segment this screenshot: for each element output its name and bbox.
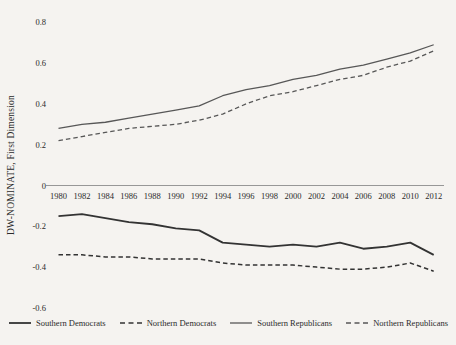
x-tick-label: 1994 (214, 191, 232, 201)
legend-label-northern-democrats: Northern Democrats (147, 318, 217, 328)
y-tick-label: 0 (42, 181, 46, 191)
legend-item-northern-republicans: Northern Republicans (345, 318, 448, 328)
x-tick-label: 1980 (50, 191, 67, 201)
chart-legend: Southern DemocratsNorthern DemocratsSout… (0, 313, 456, 333)
y-tick-label: 0.2 (35, 140, 46, 150)
y-tick-label: -0.4 (33, 262, 47, 272)
x-tick-label: 2012 (425, 191, 442, 201)
x-tick-label: 2002 (308, 191, 325, 201)
x-tick-label: 1990 (167, 191, 184, 201)
y-tick-label: -0.2 (33, 221, 46, 231)
x-tick-label: 1998 (261, 191, 278, 201)
y-tick-label: -0.6 (33, 303, 46, 313)
y-tick-label: 0.6 (35, 58, 46, 68)
y-tick-label: 0.4 (35, 99, 46, 109)
legend-sample-northern-republicans (345, 319, 369, 327)
x-tick-label: 1982 (73, 191, 90, 201)
series-line-northern-republicans (59, 51, 434, 141)
y-tick-label: 0.8 (35, 17, 46, 27)
legend-label-southern-republicans: Southern Republicans (257, 318, 332, 328)
x-tick-label: 1984 (97, 191, 115, 201)
legend-label-southern-democrats: Southern Democrats (36, 318, 106, 328)
x-tick-label: 2010 (402, 191, 419, 201)
legend-sample-southern-democrats (8, 319, 32, 327)
legend-item-southern-republicans: Southern Republicans (229, 318, 332, 328)
series-line-southern-democrats (59, 214, 434, 255)
series-line-northern-democrats (59, 255, 434, 271)
legend-label-northern-republicans: Northern Republicans (373, 318, 448, 328)
x-tick-label: 1992 (191, 191, 208, 201)
x-tick-label: 1988 (144, 191, 161, 201)
dw-nominate-figure: DW-NOMINATE, First Dimension 19801982198… (0, 0, 456, 345)
line-chart-canvas: 1980198219841986198819901992199419961998… (0, 0, 456, 345)
x-tick-label: 2008 (378, 191, 395, 201)
x-tick-label: 2000 (285, 191, 302, 201)
legend-sample-northern-democrats (119, 319, 143, 327)
series-line-southern-republicans (59, 45, 434, 129)
legend-item-southern-democrats: Southern Democrats (8, 318, 106, 328)
legend-sample-southern-republicans (229, 319, 253, 327)
legend-item-northern-democrats: Northern Democrats (119, 318, 217, 328)
x-tick-label: 1996 (238, 191, 255, 201)
x-tick-label: 2006 (355, 191, 372, 201)
x-tick-label: 2004 (331, 191, 349, 201)
x-tick-label: 1986 (120, 191, 137, 201)
